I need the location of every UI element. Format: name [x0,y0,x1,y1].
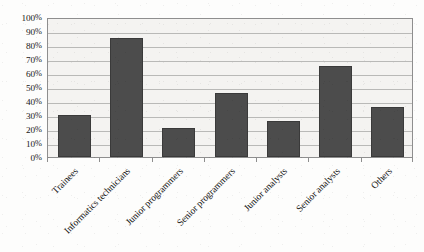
x-axis: TraineesInformatics techniciansJunior pr… [0,158,424,252]
y-axis-tick-label: 30% [0,111,42,121]
bar-chart-figure: 0%10%20%30%40%50%60%70%80%90%100% Traine… [0,0,424,252]
y-axis-tick-label: 60% [0,69,42,79]
plot-area [47,18,413,158]
y-axis-tick-label: 50% [0,83,42,93]
bar [162,128,195,157]
bar [267,121,300,157]
bar [215,93,248,157]
bar [371,107,404,157]
y-axis-tick-label: 20% [0,125,42,135]
bar [110,38,143,157]
y-axis-tick-label: 90% [0,27,42,37]
y-axis-tick-label: 70% [0,55,42,65]
x-axis-category-label: Trainees [0,166,80,252]
bar [319,66,352,157]
y-axis-tick-label: 40% [0,97,42,107]
bar [58,115,91,157]
bars-layer [48,19,412,157]
y-axis-tick-label: 80% [0,41,42,51]
y-axis-tick-label: 100% [0,13,42,23]
y-axis-tick-label: 10% [0,139,42,149]
